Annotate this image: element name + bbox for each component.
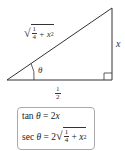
tan-formula: tan θ = 2x — [22, 111, 60, 121]
formula-box: tan θ = 2x sec θ = 2 √ 1 4 + x2 — [17, 107, 95, 150]
hypotenuse-line — [7, 8, 112, 80]
sqrt-sign: √ — [56, 130, 63, 142]
opposite-label: x — [116, 38, 120, 49]
sqrt-sign: √ — [24, 27, 31, 39]
sec-formula: sec θ = 2 √ 1 4 + x2 — [22, 127, 86, 144]
fraction: 1 4 — [64, 129, 70, 144]
angle-arc — [31, 64, 34, 81]
angle-label: θ — [38, 65, 42, 75]
right-angle-mark — [104, 73, 112, 80]
hypotenuse-label: √ 1 4 + x2 — [24, 24, 54, 41]
adjacent-label: 1 2 — [55, 83, 61, 101]
fraction: 1 4 — [32, 26, 38, 41]
